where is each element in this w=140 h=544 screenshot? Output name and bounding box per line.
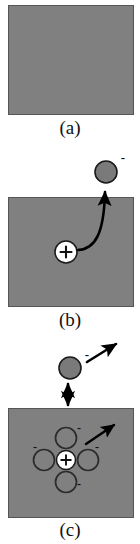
panel-a	[9, 6, 134, 115]
panel-b: -	[9, 150, 134, 307]
panel-c-caption: (c)	[0, 520, 140, 540]
figure-root: - - - - - -	[0, 0, 140, 544]
panel-a-slab	[9, 6, 134, 115]
panel-b-electron-sign: -	[121, 150, 125, 165]
panel-c-shell-sign-bottom: -	[77, 477, 81, 491]
panel-a-caption: (a)	[0, 118, 140, 138]
panel-b-caption: (b)	[0, 310, 140, 330]
panel-c-escape-arrow	[87, 344, 116, 362]
panel-c-shell-sign-top: -	[77, 421, 81, 435]
panel-c: - - - - -	[9, 344, 134, 518]
panel-b-electron	[95, 161, 117, 183]
panel-c-shell-sign-right: -	[95, 440, 99, 454]
panel-c-shell-sign-left: -	[33, 440, 37, 454]
panel-c-free-electron	[59, 357, 81, 379]
figure-canvas: - - - - - -	[0, 0, 140, 544]
